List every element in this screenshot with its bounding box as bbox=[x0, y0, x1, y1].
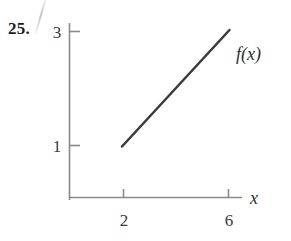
x-axis-name-label: x bbox=[249, 188, 258, 208]
x-tick-label-2: 2 bbox=[120, 211, 129, 230]
y-tick-label-1: 1 bbox=[53, 137, 62, 156]
x-tick-label-6: 6 bbox=[225, 211, 234, 230]
function-graph-figure: 3 1 2 6 x f(x) bbox=[0, 0, 291, 241]
figure-page: 25. 3 1 2 6 x f(x) bbox=[0, 0, 291, 241]
function-curve-label: f(x) bbox=[236, 44, 261, 65]
y-tick-label-3: 3 bbox=[53, 23, 62, 42]
function-line bbox=[122, 30, 230, 147]
